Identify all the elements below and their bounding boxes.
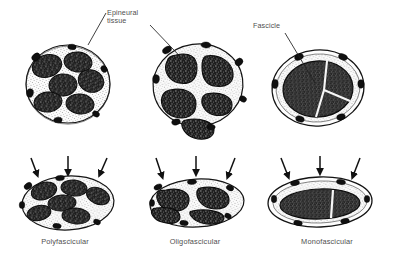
compression-arrow-right xyxy=(353,158,360,176)
epineural-tissue-label-line2: tissue xyxy=(107,16,126,25)
fascicle-label: Fascicle xyxy=(253,22,280,30)
compression-arrow-left xyxy=(156,158,162,176)
caption-monofascicular: Monofascicular xyxy=(262,237,392,246)
compression-arrow-group xyxy=(156,156,235,176)
nerve-fascicular-pattern-diagram xyxy=(0,0,397,262)
top-polyfascicular-section xyxy=(26,44,110,124)
compression-arrow-right xyxy=(100,158,107,174)
compression-arrow-group xyxy=(281,156,360,176)
compression-arrow-group xyxy=(31,156,107,174)
compression-arrow-left xyxy=(31,158,37,174)
leader-line-epineural-left xyxy=(88,13,106,45)
caption-polyfascicular: Polyfascicular xyxy=(0,237,130,246)
caption-oligofascicular: Oligofascicular xyxy=(120,237,270,246)
bottom-oligofascicular-section xyxy=(149,156,245,229)
epineural-tissue-label: Epineuraltissue xyxy=(107,9,138,26)
top-monofascicular-section xyxy=(269,46,367,130)
compression-arrow-right xyxy=(228,158,235,176)
bottom-polyfascicular-section xyxy=(19,156,115,232)
top-oligofascicular-section xyxy=(148,38,249,139)
bottom-monofascicular-section xyxy=(267,156,373,229)
compression-arrow-left xyxy=(281,158,288,176)
